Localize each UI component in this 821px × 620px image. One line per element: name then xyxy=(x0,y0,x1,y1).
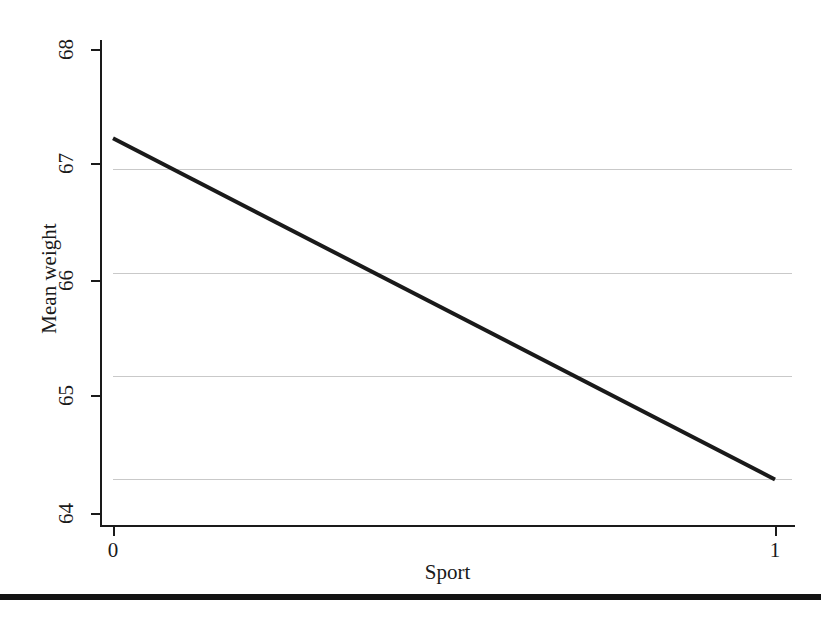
chart-figure: 68 67 66 65 64 0 1 Mean weight Sport xyxy=(0,0,821,620)
x-axis-tick-label-0: 0 xyxy=(93,540,133,561)
y-axis-tick-label-68: 68 xyxy=(56,20,77,80)
y-axis-tick-64 xyxy=(91,513,101,515)
gridline-y-67 xyxy=(113,169,792,170)
y-axis-title: Mean weight xyxy=(39,179,60,379)
x-axis-tick-label-1: 1 xyxy=(755,540,795,561)
y-axis-tick-66 xyxy=(91,280,101,282)
gridline-y-65 xyxy=(113,376,792,377)
gridline-y-66 xyxy=(113,273,792,274)
y-axis-tick-67 xyxy=(91,163,101,165)
bottom-rule xyxy=(0,594,821,600)
plot-area xyxy=(100,40,795,526)
x-axis-title: Sport xyxy=(100,562,795,583)
x-axis-tick-0 xyxy=(113,526,115,536)
x-axis-tick-1 xyxy=(775,526,777,536)
y-axis-tick-65 xyxy=(91,395,101,397)
x-axis-line xyxy=(100,525,795,527)
y-axis-tick-68 xyxy=(91,49,101,51)
y-axis-tick-label-64: 64 xyxy=(56,484,77,544)
y-axis-line xyxy=(100,40,102,526)
gridline-y-64 xyxy=(113,479,792,480)
